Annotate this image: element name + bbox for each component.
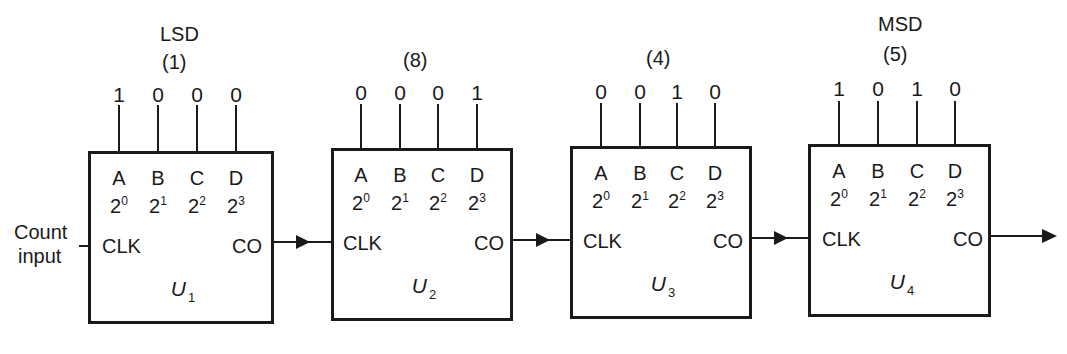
output-pin-label: B [143, 168, 173, 188]
clk-pin-label: CLK [343, 233, 382, 253]
bit-value: 0 [226, 84, 246, 105]
counter-name: U1 [153, 278, 213, 299]
bit-weight: 23 [937, 189, 973, 209]
bit-weight: 20 [343, 193, 379, 213]
bit-value: 0 [148, 84, 168, 105]
counter-name: U3 [633, 273, 693, 294]
bit-weight: 22 [179, 196, 215, 216]
decimal-digit-label: (8) [403, 50, 427, 70]
bit-weight: 21 [860, 189, 896, 209]
bit-value: 0 [945, 78, 965, 99]
bit-value: 0 [351, 82, 371, 103]
co-pin-label: CO [713, 231, 743, 251]
bit-weight: 20 [101, 196, 137, 216]
arrow-icon [536, 233, 550, 247]
lsd-label: LSD [160, 24, 199, 44]
counter-name: U4 [872, 271, 932, 292]
arrow-icon [296, 235, 310, 249]
arrow-icon [1042, 229, 1057, 243]
bit-value: 1 [907, 78, 927, 99]
bit-value: 1 [467, 82, 487, 103]
clk-pin-label: CLK [583, 231, 622, 251]
clk-pin-label: CLK [822, 229, 861, 249]
output-pin-label: A [824, 161, 854, 181]
output-pin-label: A [104, 168, 134, 188]
bit-weight: 22 [659, 191, 695, 211]
output-pin-label: D [221, 168, 251, 188]
output-pin-label: A [586, 163, 616, 183]
output-pin-label: D [700, 163, 730, 183]
arrow-icon [774, 231, 788, 245]
bit-weight: 21 [622, 191, 658, 211]
counter-u2: A B C D 20 21 22 23 CLK CO U2 [331, 148, 513, 321]
decimal-digit-label: (4) [646, 48, 670, 68]
bit-weight: 22 [420, 193, 456, 213]
bit-value: 0 [591, 81, 611, 102]
output-pin-label: B [385, 165, 415, 185]
bit-weight: 22 [899, 189, 935, 209]
count-input-label-line2: input [18, 246, 61, 266]
co-pin-label: CO [953, 229, 983, 249]
bit-value: 1 [829, 78, 849, 99]
output-pin-label: C [902, 161, 932, 181]
output-pin-label: D [940, 161, 970, 181]
bit-value: 1 [667, 81, 687, 102]
msd-label: MSD [878, 14, 922, 34]
bit-weight: 21 [140, 196, 176, 216]
counter-name: U2 [394, 275, 454, 296]
output-pin-label: C [182, 168, 212, 188]
decimal-digit-label: (1) [162, 52, 186, 72]
bit-weight: 23 [459, 193, 495, 213]
counter-u3: A B C D 20 21 22 23 CLK CO U3 [570, 146, 752, 319]
bit-weight: 20 [583, 191, 619, 211]
bit-weight: 23 [218, 196, 254, 216]
bit-value: 0 [390, 82, 410, 103]
output-pin-label: B [863, 161, 893, 181]
bit-value: 0 [868, 78, 888, 99]
output-pin-label: D [462, 165, 492, 185]
bit-weight: 21 [382, 193, 418, 213]
output-pin-label: A [346, 165, 376, 185]
co-pin-label: CO [232, 236, 262, 256]
bit-value: 0 [428, 82, 448, 103]
bit-weight: 23 [697, 191, 733, 211]
bit-value: 1 [109, 84, 129, 105]
bit-weight: 20 [821, 189, 857, 209]
output-pin-label: C [662, 163, 692, 183]
decimal-digit-label: (5) [883, 44, 907, 64]
co-pin-label: CO [474, 233, 504, 253]
bit-value: 0 [705, 81, 725, 102]
bit-value: 0 [187, 84, 207, 105]
output-pin-label: B [625, 163, 655, 183]
counter-u4: A B C D 20 21 22 23 CLK CO U4 [808, 144, 991, 317]
count-input-label: Count [14, 222, 67, 242]
clk-pin-label: CLK [102, 236, 141, 256]
counter-u1: A B C D 20 21 22 23 CLK CO U1 [88, 151, 274, 324]
bit-value: 0 [630, 81, 650, 102]
output-pin-label: C [423, 165, 453, 185]
